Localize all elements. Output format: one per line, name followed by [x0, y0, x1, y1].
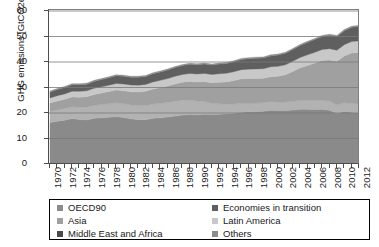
x-axis-tick-label: 1990 — [200, 167, 210, 188]
legend-swatch-icon — [212, 205, 218, 211]
x-axis-tick-label: 2012 — [362, 167, 372, 188]
x-axis-tick-label: 1994 — [230, 167, 240, 188]
y-axis-tick-label: 30 — [0, 82, 27, 92]
x-axis-tick-label: 1998 — [259, 167, 269, 188]
legend-item-label: Latin America — [223, 216, 281, 226]
x-axis-tick-label: 2010 — [347, 167, 357, 188]
y-axis-tick-label: 40 — [0, 56, 27, 66]
x-axis-tick-label: 2004 — [303, 167, 313, 188]
y-axis-tick-label: 0 — [0, 158, 27, 168]
x-axis-tick-mark — [181, 164, 182, 168]
x-axis-tick-mark — [64, 164, 65, 168]
x-axis-tick-mark — [78, 164, 79, 168]
legend-swatch-icon — [212, 231, 218, 237]
legend-swatch-icon — [212, 218, 218, 224]
x-axis-tick-mark — [226, 164, 227, 168]
x-axis-tick-label: 1974 — [82, 167, 92, 188]
legend-item-label: OECD90 — [68, 203, 106, 213]
x-axis-tick-mark — [49, 164, 50, 168]
legend-column-right: Economies in transitionLatin AmericaOthe… — [212, 202, 321, 241]
x-axis-tick-label: 1970 — [53, 167, 63, 188]
x-axis-tick-mark — [240, 164, 241, 168]
legend-item[interactable]: Middle East and Africa — [57, 228, 163, 240]
y-axis-tick-label: 50 — [0, 31, 27, 41]
legend-item[interactable]: Economies in transition — [212, 202, 321, 214]
x-axis-tick-mark — [211, 164, 212, 168]
x-axis-tick-mark — [196, 164, 197, 168]
x-axis-tick-label: 2000 — [274, 167, 284, 188]
x-axis-tick-mark — [137, 164, 138, 168]
x-axis-tick-label: 1982 — [141, 167, 151, 188]
x-axis-tick-mark — [299, 164, 300, 168]
x-axis-tick-label: 1988 — [185, 167, 195, 188]
legend-item[interactable]: Others — [212, 228, 321, 240]
chart-legend: OECD90AsiaMiddle East and Africa Economi… — [49, 199, 370, 240]
x-axis-tick-mark — [284, 164, 285, 168]
plot-area — [48, 9, 359, 164]
x-axis-tick-label: 1984 — [156, 167, 166, 188]
x-axis-tick-mark — [314, 164, 315, 168]
x-axis-tick-mark — [329, 164, 330, 168]
x-axis-tick-mark — [123, 164, 124, 168]
plot-area-wrapper — [48, 9, 359, 164]
x-axis-tick-mark — [93, 164, 94, 168]
x-axis-tick-mark — [152, 164, 153, 168]
x-axis-tick-label: 1980 — [127, 167, 137, 188]
x-axis-tick-label: 1976 — [97, 167, 107, 188]
x-axis-tick-mark — [167, 164, 168, 168]
x-axis-tick-label: 1992 — [215, 167, 225, 188]
x-axis-tick-label: 2006 — [318, 167, 328, 188]
x-axis-tick-mark — [255, 164, 256, 168]
legend-item-label: Middle East and Africa — [68, 229, 163, 239]
x-axis-tick-mark — [358, 164, 359, 168]
x-axis-tick-label: 1996 — [244, 167, 254, 188]
legend-swatch-icon — [57, 231, 63, 237]
x-axis-tick-label: 2002 — [288, 167, 298, 188]
x-axis-tick-label: 1978 — [112, 167, 122, 188]
legend-item[interactable]: OECD90 — [57, 202, 163, 214]
x-axis-tick-label: 1986 — [171, 167, 181, 188]
y-axis-tick-label: 10 — [0, 133, 27, 143]
x-axis-tick-mark — [270, 164, 271, 168]
legend-column-left: OECD90AsiaMiddle East and Africa — [57, 202, 163, 241]
x-axis-tick-mark — [343, 164, 344, 168]
x-axis-tick-label: 1972 — [68, 167, 78, 188]
stacked-area-canvas — [49, 10, 359, 164]
legend-item-label: Asia — [68, 216, 86, 226]
legend-item[interactable]: Latin America — [212, 215, 321, 227]
legend-item[interactable]: Asia — [57, 215, 163, 227]
y-axis-tick-label: 20 — [0, 107, 27, 117]
legend-item-label: Economies in transition — [223, 203, 321, 213]
legend-swatch-icon — [57, 205, 63, 211]
legend-item-label: Others — [223, 229, 252, 239]
legend-swatch-icon — [57, 218, 63, 224]
x-axis-tick-label: 2008 — [333, 167, 343, 188]
x-axis-tick-mark — [108, 164, 109, 168]
chart-figure: GHG emissions [GtCO2eq] 0102030405060 19… — [0, 0, 379, 247]
y-axis-tick-label: 60 — [0, 5, 27, 15]
